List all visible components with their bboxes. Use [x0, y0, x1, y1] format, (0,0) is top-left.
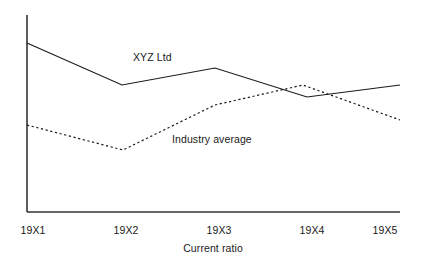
series-label-industry-average: Industry average: [172, 134, 252, 145]
x-tick-label-19x5: 19X5: [373, 225, 398, 236]
x-tick-label-19x3: 19X3: [207, 225, 232, 236]
series-label-xyz-ltd: XYZ Ltd: [133, 52, 172, 63]
x-tick-label-19x2: 19X2: [114, 225, 139, 236]
series-line-xyz-ltd: [27, 43, 400, 97]
x-tick-label-19x1: 19X1: [21, 225, 46, 236]
x-axis-title: Current ratio: [183, 243, 243, 254]
x-tick-label-19x4: 19X4: [300, 225, 325, 236]
line-chart-current-ratio: 19X1 19X2 19X3 19X4 19X5 Current ratio X…: [0, 0, 427, 267]
